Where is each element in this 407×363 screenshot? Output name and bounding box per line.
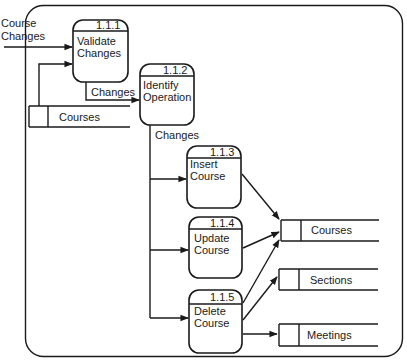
data-store-meetings: Meetings — [279, 324, 378, 346]
data-store-sections: Sections — [279, 269, 378, 290]
flow-update-to-courses — [243, 232, 279, 248]
data-store-courses-left: Courses — [29, 106, 130, 127]
data-store-label: Sections — [310, 274, 353, 286]
process-label: Identify — [143, 79, 179, 91]
flow-label-changes-2: Changes — [91, 86, 136, 98]
process-label: Delete — [194, 305, 226, 317]
process-label: Course — [190, 170, 225, 182]
process-label: Validate — [77, 35, 116, 47]
flow-label-changes-3: Changes — [155, 129, 200, 141]
process-label: Course — [194, 244, 229, 256]
flow-delete-to-sections — [243, 277, 277, 320]
process-id: 1.1.1 — [96, 19, 120, 31]
data-store-courses-right: Courses — [281, 220, 379, 241]
process-id: 1.1.2 — [163, 64, 187, 76]
process-id: 1.1.5 — [210, 291, 234, 303]
process-id: 1.1.4 — [210, 217, 234, 229]
data-store-label: Courses — [59, 111, 100, 123]
data-flow-diagram: Course Changes Changes Changes Courses C… — [0, 0, 407, 363]
process-1-1-1: 1.1.1 Validate Changes — [73, 19, 128, 82]
process-label: Update — [194, 232, 229, 244]
process-label: Operation — [143, 91, 191, 103]
data-store-label: Meetings — [307, 329, 352, 341]
flow-label-course: Course — [1, 17, 36, 29]
process-label: Course — [194, 317, 229, 329]
flow-delete-to-courses — [243, 240, 279, 303]
process-1-1-3: 1.1.3 Insert Course — [187, 146, 241, 208]
process-id: 1.1.3 — [210, 146, 234, 158]
flow-insert-to-courses — [242, 174, 279, 219]
process-1-1-4: 1.1.4 Update Course — [189, 217, 242, 278]
flow-courses-to-validate — [39, 64, 72, 106]
process-label: Insert — [190, 158, 218, 170]
data-store-label: Courses — [311, 224, 352, 236]
flow-label-changes: Changes — [1, 30, 46, 42]
process-label: Changes — [77, 47, 122, 59]
process-1-1-2: 1.1.2 Identify Operation — [140, 64, 194, 125]
process-1-1-5: 1.1.5 Delete Course — [189, 290, 242, 353]
